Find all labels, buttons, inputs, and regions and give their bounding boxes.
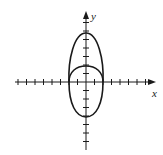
- y-axis-label: y: [90, 10, 96, 22]
- x-axis-arrow-icon: [148, 79, 156, 85]
- x-axis-label: x: [151, 87, 157, 99]
- polar-diagram: x y: [0, 0, 163, 155]
- y-axis-arrow-icon: [83, 11, 89, 19]
